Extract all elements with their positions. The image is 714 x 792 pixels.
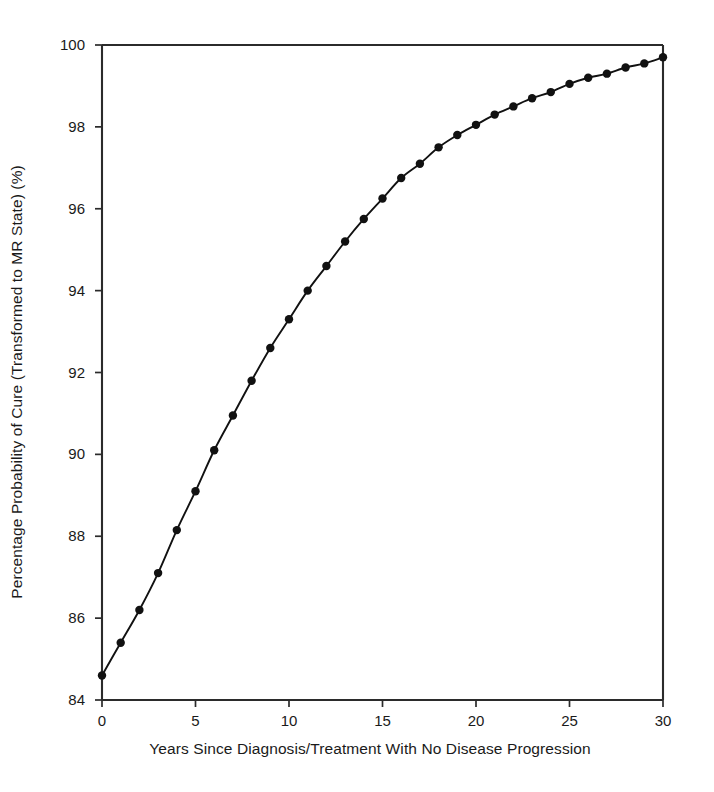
data-point xyxy=(173,526,181,534)
data-point xyxy=(434,143,442,151)
y-tick-label: 84 xyxy=(45,692,85,707)
data-point xyxy=(98,671,106,679)
x-tick-label: 15 xyxy=(363,713,403,728)
data-point xyxy=(266,344,274,352)
data-point xyxy=(640,59,648,67)
data-point xyxy=(117,638,125,646)
x-tick-label: 20 xyxy=(456,713,496,728)
data-point xyxy=(565,80,573,88)
plot-area xyxy=(0,0,714,792)
x-tick-label: 30 xyxy=(643,713,683,728)
data-point xyxy=(285,315,293,323)
x-tick-label: 0 xyxy=(82,713,122,728)
data-point xyxy=(191,487,199,495)
y-tick-label: 88 xyxy=(45,528,85,543)
chart-figure: Percentage Probability of Cure (Transfor… xyxy=(0,0,714,792)
data-point xyxy=(210,446,218,454)
y-tick-label: 90 xyxy=(45,446,85,461)
axes-frame xyxy=(102,45,663,700)
data-point xyxy=(135,606,143,614)
data-point xyxy=(378,194,386,202)
series-markers xyxy=(98,53,667,680)
data-point xyxy=(416,160,424,168)
data-point xyxy=(453,131,461,139)
data-point xyxy=(491,110,499,118)
series-line-probability-of-cure xyxy=(102,57,663,675)
x-tick-label: 5 xyxy=(176,713,216,728)
data-point xyxy=(547,88,555,96)
y-tick-label: 96 xyxy=(45,201,85,216)
data-point xyxy=(154,569,162,577)
data-point xyxy=(229,411,237,419)
data-point xyxy=(659,53,667,61)
data-point xyxy=(603,69,611,77)
y-tick-label: 98 xyxy=(45,119,85,134)
data-point xyxy=(247,376,255,384)
x-tick-label: 10 xyxy=(269,713,309,728)
data-point xyxy=(360,215,368,223)
y-tick-label: 100 xyxy=(45,37,85,52)
y-tick-label: 94 xyxy=(45,283,85,298)
data-point xyxy=(304,286,312,294)
data-point xyxy=(509,102,517,110)
data-point xyxy=(621,63,629,71)
x-tick-label: 25 xyxy=(550,713,590,728)
data-point xyxy=(397,174,405,182)
data-point xyxy=(584,74,592,82)
data-point xyxy=(528,94,536,102)
data-point xyxy=(472,121,480,129)
data-point xyxy=(341,237,349,245)
data-point xyxy=(322,262,330,270)
y-tick-label: 86 xyxy=(45,610,85,625)
y-tick-label: 92 xyxy=(45,365,85,380)
